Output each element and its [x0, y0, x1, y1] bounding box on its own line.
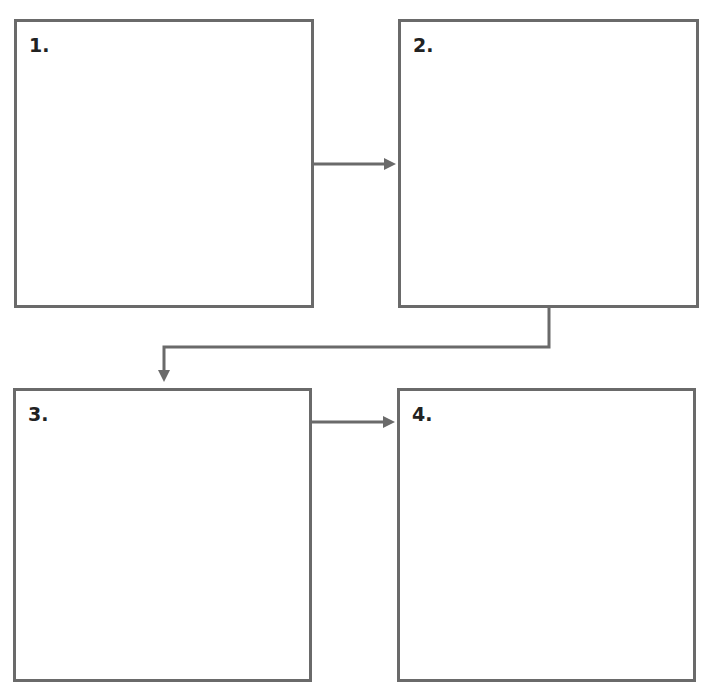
arrowhead-right-icon [383, 416, 395, 428]
arrow-1-to-2 [314, 158, 396, 170]
arrowhead-right-icon [384, 158, 396, 170]
arrow-3-to-4 [312, 416, 395, 428]
arrowhead-down-icon [158, 370, 170, 382]
arrow-2-to-3 [158, 308, 549, 382]
connectors [0, 0, 707, 692]
